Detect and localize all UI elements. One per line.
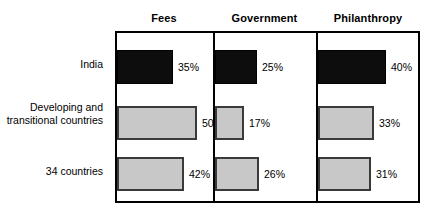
column-header-fees: Fees [115,10,213,26]
bar-india-government [215,50,257,84]
bar-value-34countries-philanthropy: 31% [376,157,397,191]
bar-row-34-countries: 42% 26% 31% [117,157,418,191]
bar-cell-34countries-philanthropy: 31% [318,157,420,191]
bar-row-india: 35% 25% 40% [117,50,418,84]
bar-34countries-government [215,157,259,191]
bar-value-developing-government: 17% [249,106,270,140]
bar-34countries-philanthropy [318,157,371,191]
bar-value-india-fees: 35% [178,50,199,84]
bar-cell-developing-government: 17% [215,106,316,140]
row-label-34-countries: 34 countries [0,165,109,178]
bar-value-34countries-fees: 42% [189,157,210,191]
bar-india-fees [117,50,173,84]
bar-value-india-philanthropy: 40% [391,50,412,84]
bar-india-philanthropy [318,50,386,84]
bar-developing-philanthropy [318,106,374,140]
bar-chart: Fees Government Philanthropy India Devel… [0,0,432,215]
bar-cell-developing-philanthropy: 33% [318,106,420,140]
bar-value-34countries-government: 26% [264,157,285,191]
bar-cell-34countries-government: 26% [215,157,316,191]
bar-developing-fees [117,106,197,140]
bar-value-developing-philanthropy: 33% [379,106,400,140]
row-label-developing-and-transitional-countries: Developing and transitional countries [0,101,109,127]
column-header-philanthropy: Philanthropy [316,10,420,26]
bar-cell-india-philanthropy: 40% [318,50,420,84]
bar-cell-34countries-fees: 42% [117,157,213,191]
bar-cell-india-government: 25% [215,50,316,84]
bar-cell-india-fees: 35% [117,50,213,84]
row-label-india: India [0,58,109,71]
bar-34countries-fees [117,157,184,191]
bar-developing-government [215,106,244,140]
bar-value-india-government: 25% [262,50,283,84]
bar-row-developing: 50% 17% 33% [117,106,418,140]
column-header-government: Government [213,10,316,26]
plot-frame: 35% 25% 40% 50% 17% 33% [115,31,420,203]
bar-cell-developing-fees: 50% [117,106,213,140]
